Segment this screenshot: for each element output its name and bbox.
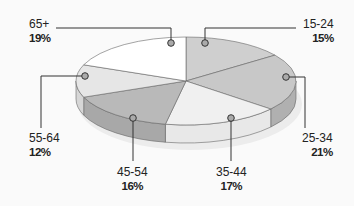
label-45-54: 45-54 16%	[117, 165, 148, 193]
label-percent: 15%	[303, 31, 334, 45]
label-55-64: 55-64 12%	[29, 131, 60, 159]
callout-dot-icon	[82, 73, 89, 80]
callout-dot-icon	[283, 74, 290, 81]
callout-dot-icon	[130, 115, 137, 122]
label-percent: 17%	[216, 179, 247, 193]
label-25-34: 25-34 21%	[302, 131, 333, 159]
label-category: 25-34	[302, 131, 333, 145]
pie-chart	[0, 0, 354, 206]
label-65-plus: 65+ 19%	[29, 17, 51, 45]
label-percent: 21%	[302, 145, 333, 159]
pie-top-slices	[76, 37, 296, 125]
label-35-44: 35-44 17%	[216, 165, 247, 193]
label-percent: 12%	[29, 145, 60, 159]
label-15-24: 15-24 15%	[303, 17, 334, 45]
callout-dot-icon	[168, 40, 175, 47]
callout-dot-icon	[228, 115, 235, 122]
label-category: 55-64	[29, 131, 60, 145]
label-percent: 16%	[117, 179, 148, 193]
label-category: 15-24	[303, 17, 334, 31]
label-category: 45-54	[117, 165, 148, 179]
label-category: 65+	[29, 17, 51, 31]
label-percent: 19%	[29, 31, 51, 45]
label-category: 35-44	[216, 165, 247, 179]
callout-dot-icon	[202, 40, 209, 47]
